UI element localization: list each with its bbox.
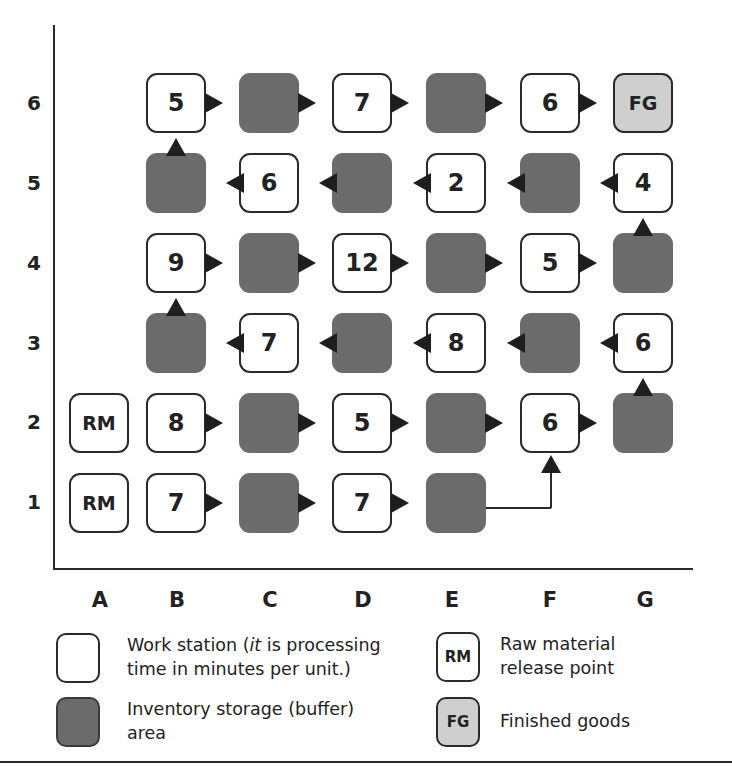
- legend-text-part: Inventory storage (buffer): [127, 699, 354, 719]
- arrow-right-icon: [205, 93, 223, 113]
- arrow-left-icon: [226, 333, 244, 353]
- arrow-up-icon: [541, 455, 561, 473]
- workstation-F4: 5: [520, 233, 580, 293]
- row-label-1: 1: [22, 490, 46, 514]
- row-label-2: 2: [22, 410, 46, 434]
- arrow-left-icon: [413, 333, 431, 353]
- buffer-B3: [146, 313, 206, 373]
- arrow-left-icon: [507, 333, 525, 353]
- finished-goods-G6: FG: [613, 73, 673, 133]
- workstation-F2: 6: [520, 393, 580, 453]
- arrow-left-icon: [319, 173, 337, 193]
- arrow-right-icon: [205, 253, 223, 273]
- row-label-3: 3: [22, 331, 46, 355]
- legend-text-part: Work station (: [127, 635, 250, 655]
- arrow-up-icon: [633, 378, 653, 396]
- col-label-g: G: [625, 588, 665, 612]
- workstation-D1: 7: [332, 473, 392, 533]
- legend-workstation-swatch: [56, 633, 100, 683]
- arrow-right-icon: [205, 493, 223, 513]
- buffer-G2: [613, 393, 673, 453]
- arrow-right-icon: [298, 253, 316, 273]
- workstation-E3: 8: [426, 313, 486, 373]
- raw-material-A2: RM: [69, 393, 129, 453]
- arrow-right-icon: [579, 93, 597, 113]
- arrow-right-icon: [391, 253, 409, 273]
- arrow-right-icon: [579, 253, 597, 273]
- buffer-E4: [426, 233, 486, 293]
- legend-buffer-text: Inventory storage (buffer) area: [127, 697, 354, 745]
- legend-text-italic: it: [250, 635, 262, 655]
- legend-text-part: area: [127, 723, 166, 743]
- workstation-C5: 6: [239, 153, 299, 213]
- workstation-B6: 5: [146, 73, 206, 133]
- x-axis: [53, 568, 693, 570]
- col-label-d: D: [343, 588, 383, 612]
- arrow-right-icon: [391, 493, 409, 513]
- arrow-up-icon: [166, 138, 186, 156]
- col-label-f: F: [530, 588, 570, 612]
- raw-material-A1: RM: [69, 473, 129, 533]
- workstation-B2: 8: [146, 393, 206, 453]
- buffer-G4: [613, 233, 673, 293]
- workstation-G5: 4: [613, 153, 673, 213]
- workstation-B1: 7: [146, 473, 206, 533]
- buffer-F5: [520, 153, 580, 213]
- legend-workstation-text: Work station (it is processing time in m…: [127, 633, 381, 681]
- workstation-F6: 6: [520, 73, 580, 133]
- workstation-B4: 9: [146, 233, 206, 293]
- buffer-D3: [332, 313, 392, 373]
- arrow-left-icon: [600, 173, 618, 193]
- arrow-left-icon: [226, 173, 244, 193]
- buffer-C6: [239, 73, 299, 133]
- legend-text-part: is processing: [261, 635, 380, 655]
- workstation-C3: 7: [239, 313, 299, 373]
- y-axis: [53, 25, 55, 570]
- buffer-E2: [426, 393, 486, 453]
- arrow-right-icon: [579, 413, 597, 433]
- arrow-right-icon: [391, 413, 409, 433]
- row-label-4: 4: [22, 251, 46, 275]
- col-label-b: B: [157, 588, 197, 612]
- arrow-left-icon: [319, 333, 337, 353]
- legend-text-part: Raw material: [500, 634, 615, 654]
- legend-finished-goods-text: Finished goods: [500, 709, 630, 733]
- col-label-e: E: [432, 588, 472, 612]
- legend-raw-material-swatch: RM: [436, 632, 480, 682]
- arrow-right-icon: [485, 93, 503, 113]
- workstation-D4: 12: [332, 233, 392, 293]
- buffer-D5: [332, 153, 392, 213]
- arrow-right-icon: [298, 93, 316, 113]
- col-label-c: C: [250, 588, 290, 612]
- arrow-right-icon: [485, 413, 503, 433]
- workstation-D2: 5: [332, 393, 392, 453]
- arrow-up-icon: [633, 218, 653, 236]
- row-label-5: 5: [22, 171, 46, 195]
- connector-line: [550, 470, 552, 508]
- arrow-left-icon: [507, 173, 525, 193]
- legend-raw-material-text: Raw material release point: [500, 632, 615, 680]
- legend-finished-goods-swatch: FG: [436, 697, 480, 747]
- arrow-up-icon: [166, 298, 186, 316]
- legend-text-part: release point: [500, 658, 614, 678]
- legend-buffer-swatch: [56, 697, 100, 747]
- col-label-a: A: [80, 588, 120, 612]
- buffer-E6: [426, 73, 486, 133]
- legend-text-part: Finished goods: [500, 711, 630, 731]
- workstation-G3: 6: [613, 313, 673, 373]
- buffer-C1: [239, 473, 299, 533]
- arrow-right-icon: [298, 493, 316, 513]
- bottom-divider: [0, 761, 732, 763]
- arrow-right-icon: [205, 413, 223, 433]
- connector-line: [486, 507, 551, 509]
- process-layout-diagram: 6 5 4 3 2 1 A B C D E F G RM 7 7 RM 8 5 …: [0, 0, 732, 771]
- arrow-right-icon: [485, 253, 503, 273]
- buffer-C4: [239, 233, 299, 293]
- workstation-D6: 7: [332, 73, 392, 133]
- arrow-left-icon: [413, 173, 431, 193]
- arrow-left-icon: [600, 333, 618, 353]
- buffer-B5: [146, 153, 206, 213]
- row-label-6: 6: [22, 91, 46, 115]
- buffer-E1: [426, 473, 486, 533]
- arrow-right-icon: [298, 413, 316, 433]
